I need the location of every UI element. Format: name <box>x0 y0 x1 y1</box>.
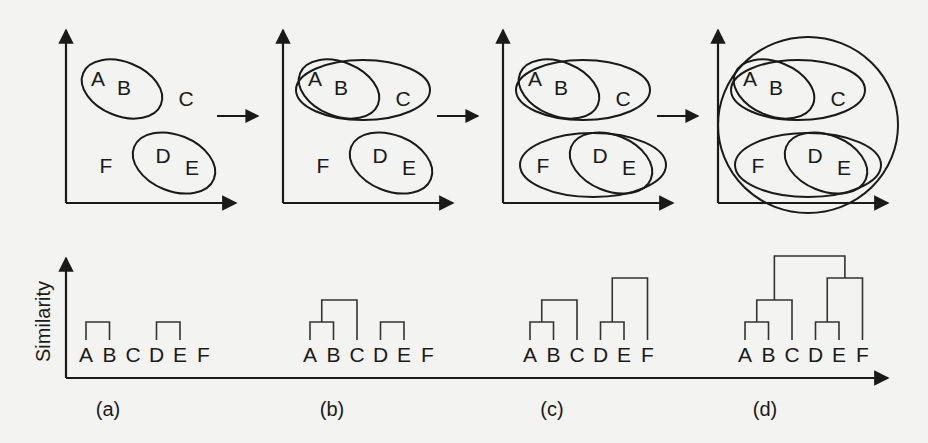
point-label-a: A <box>743 67 757 90</box>
leaf-label-e: E <box>397 343 411 366</box>
merge-abc <box>542 300 577 340</box>
leaf-label-b: B <box>761 343 775 366</box>
scatter-panel-1: ABCDEF <box>66 30 236 205</box>
dendrogram-2: ABCDEF <box>303 300 434 366</box>
clustering-figure: ABCDEFABCDEFABCDEFABCDEF Similarity ABCD… <box>0 0 928 443</box>
leaf-label-c: C <box>349 343 364 366</box>
merge-de <box>816 322 840 340</box>
merge-ab <box>530 322 554 340</box>
scatter-panel-2: ABCDEF <box>283 30 453 205</box>
point-label-a: A <box>91 67 105 90</box>
leaf-label-a: A <box>523 343 537 366</box>
dendrogram-1: ABCDEF <box>79 322 210 366</box>
scatter-panels: ABCDEFABCDEFABCDEFABCDEF <box>66 30 898 213</box>
point-label-c: C <box>178 87 193 110</box>
leaf-label-d: D <box>593 343 608 366</box>
leaf-label-d: D <box>373 343 388 366</box>
point-label-b: B <box>554 76 568 99</box>
merge-def <box>612 278 647 340</box>
point-label-f: F <box>317 154 330 177</box>
point-label-c: C <box>830 87 845 110</box>
merge-ab <box>310 322 334 340</box>
scatter-panel-3: ABCDEF <box>503 30 673 205</box>
leaf-label-f: F <box>856 343 869 366</box>
point-label-f: F <box>752 154 765 177</box>
cluster-de <box>124 121 225 205</box>
point-label-c: C <box>615 87 630 110</box>
dendrogram-4: ABCDEF <box>738 256 869 366</box>
leaf-label-d: D <box>808 343 823 366</box>
leaf-label-b: B <box>546 343 560 366</box>
leaf-label-d: D <box>149 343 164 366</box>
point-label-d: D <box>372 144 387 167</box>
point-label-a: A <box>528 67 542 90</box>
merge-de <box>381 322 405 340</box>
merge-ab <box>86 322 110 340</box>
point-label-f: F <box>537 154 550 177</box>
point-label-e: E <box>402 156 416 179</box>
stage-caption-1: (a) <box>96 398 120 420</box>
point-label-e: E <box>185 156 199 179</box>
point-label-d: D <box>155 144 170 167</box>
point-label-c: C <box>395 87 410 110</box>
leaf-label-b: B <box>326 343 340 366</box>
merge-def <box>827 278 862 340</box>
dendrograms: ABCDEFABCDEFABCDEFABCDEF <box>79 256 869 366</box>
leaf-label-c: C <box>125 343 140 366</box>
leaf-label-a: A <box>738 343 752 366</box>
leaf-label-f: F <box>641 343 654 366</box>
leaf-label-e: E <box>173 343 187 366</box>
leaf-label-a: A <box>79 343 93 366</box>
stage-captions: (a)(b)(c)(d) <box>96 398 777 420</box>
stage-caption-2: (b) <box>320 398 344 420</box>
merge-abc <box>322 300 357 340</box>
point-label-b: B <box>117 76 131 99</box>
point-label-b: B <box>769 76 783 99</box>
leaf-label-a: A <box>303 343 317 366</box>
stage-caption-4: (d) <box>753 398 777 420</box>
point-label-f: F <box>100 154 113 177</box>
dendrogram-3: ABCDEF <box>523 278 654 366</box>
merge-ab <box>745 322 769 340</box>
point-label-d: D <box>592 144 607 167</box>
scatter-panel-4: ABCDEF <box>718 30 898 213</box>
stage-caption-3: (c) <box>540 398 563 420</box>
point-label-d: D <box>807 144 822 167</box>
leaf-label-f: F <box>197 343 210 366</box>
leaf-label-b: B <box>102 343 116 366</box>
cluster-abcdef <box>718 37 898 213</box>
similarity-axis-label: Similarity <box>32 281 54 362</box>
leaf-label-c: C <box>784 343 799 366</box>
leaf-label-c: C <box>569 343 584 366</box>
merge-abc <box>757 300 792 340</box>
point-label-b: B <box>334 76 348 99</box>
leaf-label-f: F <box>421 343 434 366</box>
merge-de <box>157 322 181 340</box>
point-label-a: A <box>308 67 322 90</box>
point-label-e: E <box>837 156 851 179</box>
leaf-label-e: E <box>617 343 631 366</box>
point-label-e: E <box>622 156 636 179</box>
merge-de <box>601 322 625 340</box>
cluster-de <box>341 121 442 205</box>
leaf-label-e: E <box>832 343 846 366</box>
